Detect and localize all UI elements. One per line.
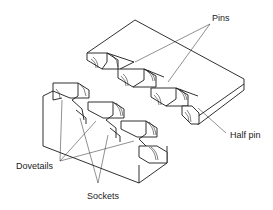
dovetail-drawing xyxy=(0,0,273,210)
label-dovetails: Dovetails xyxy=(16,162,53,171)
label-pins: Pins xyxy=(212,14,230,23)
dovetail-diagram: Pins Half pin Dovetails Sockets xyxy=(0,0,273,210)
tail-board xyxy=(43,83,167,183)
label-half-pin: Half pin xyxy=(230,131,261,140)
label-sockets: Sockets xyxy=(87,192,119,201)
